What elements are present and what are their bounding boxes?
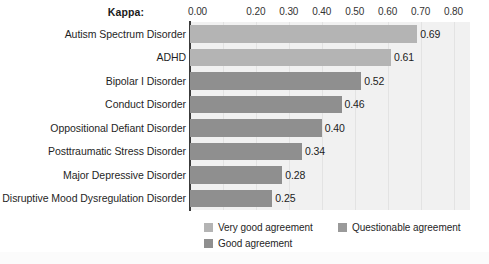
- legend-item[interactable]: Very good agreement: [204, 221, 313, 234]
- x-axis-tick-label: 0.50: [345, 6, 364, 17]
- legend-swatch-icon: [204, 223, 213, 232]
- bottom-edge-strip: [0, 252, 489, 264]
- bar: [190, 190, 272, 208]
- bar-value-label: 0.25: [272, 190, 295, 208]
- bar: [190, 166, 282, 184]
- kappa-bar-chart: Kappa: 0.000.100.200.300.400.500.600.700…: [0, 0, 489, 264]
- chart-legend: Very good agreementQuestionable agreemen…: [204, 221, 489, 253]
- bar-row: 0.61: [0, 46, 489, 70]
- bar-row: 0.52: [0, 69, 489, 93]
- bar: [190, 119, 322, 137]
- x-axis-tick-label: 0.00: [188, 6, 207, 17]
- bar-value-label: 0.46: [342, 96, 365, 114]
- legend-item[interactable]: Good agreement: [204, 237, 292, 250]
- bar-row: 0.28: [0, 163, 489, 187]
- bar-row: 0.46: [0, 93, 489, 117]
- x-axis-tick-label: 0.70: [411, 6, 430, 17]
- bar-row: 0.40: [0, 116, 489, 140]
- bar-value-label: 0.34: [302, 143, 325, 161]
- legend-swatch-icon: [204, 239, 213, 248]
- bar-value-label: 0.28: [282, 166, 305, 184]
- bar: [190, 25, 417, 43]
- bar: [190, 143, 302, 161]
- bar-value-label: 0.52: [361, 72, 384, 90]
- x-axis-header: Kappa: 0.000.100.200.300.400.500.600.700…: [0, 6, 489, 21]
- x-axis-tick-label: 0.80: [444, 6, 463, 17]
- bar: [190, 49, 391, 67]
- legend-label: Good agreement: [218, 238, 292, 249]
- legend-swatch-icon: [338, 223, 347, 232]
- x-axis-tick-label: 0.20: [246, 6, 265, 17]
- x-axis-tick-label: 0.30: [279, 6, 298, 17]
- x-axis-tick-label: 0.40: [312, 6, 331, 17]
- x-axis-title: Kappa:: [108, 6, 144, 18]
- x-axis-tick-label: 0.60: [378, 6, 397, 17]
- legend-item[interactable]: Questionable agreement: [338, 221, 460, 234]
- bar-row: 0.25: [0, 187, 489, 211]
- bar: [190, 96, 342, 114]
- legend-label: Questionable agreement: [352, 222, 460, 233]
- bar-row: 0.34: [0, 140, 489, 164]
- bar-row: 0.69: [0, 22, 489, 46]
- bar-value-label: 0.69: [417, 25, 440, 43]
- bar: [190, 72, 361, 90]
- bar-value-label: 0.61: [391, 49, 414, 67]
- legend-label: Very good agreement: [218, 222, 313, 233]
- bar-value-label: 0.40: [322, 119, 345, 137]
